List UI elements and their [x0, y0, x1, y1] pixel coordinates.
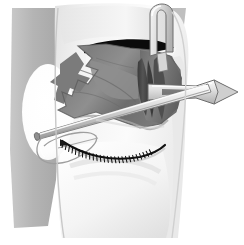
illustration-canvas: Surgical illustration of eyelid and orbi… — [0, 0, 244, 245]
surgical-illustration-svg — [0, 0, 244, 245]
top-hook-shaft[interactable] — [157, 52, 168, 72]
